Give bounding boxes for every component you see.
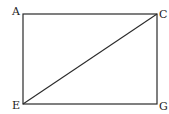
vertex-label-a: A [11,5,21,18]
vertex-label-e: E [12,99,20,112]
vertex-label-c: C [159,8,167,21]
diagonal-ec [23,14,157,104]
vertex-label-g: G [159,100,168,113]
diagram-canvas: A C E G [0,0,169,114]
